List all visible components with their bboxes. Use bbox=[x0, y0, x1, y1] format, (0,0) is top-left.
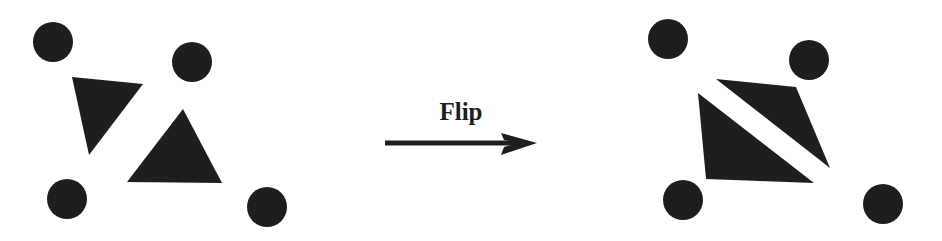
after-configuration bbox=[648, 19, 903, 224]
before-triangle-icon bbox=[72, 77, 143, 155]
after-circle-icon bbox=[663, 180, 703, 220]
flip-diagram: Flip bbox=[0, 0, 942, 241]
before-triangle-icon bbox=[127, 109, 222, 183]
after-circle-icon bbox=[648, 19, 688, 59]
flip-arrow: Flip bbox=[385, 98, 537, 155]
before-circle-icon bbox=[33, 22, 73, 62]
flip-label: Flip bbox=[439, 98, 482, 125]
before-circle-icon bbox=[47, 179, 87, 219]
after-circle-icon bbox=[863, 184, 903, 224]
before-circle-icon bbox=[172, 42, 212, 82]
diagram-svg: Flip bbox=[0, 0, 942, 241]
after-circle-icon bbox=[789, 40, 829, 80]
before-circle-icon bbox=[247, 187, 287, 227]
before-configuration bbox=[33, 22, 287, 227]
